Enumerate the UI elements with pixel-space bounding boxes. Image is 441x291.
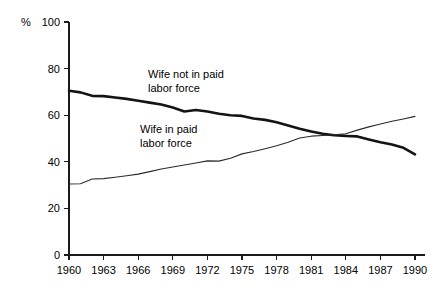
annotation-label-1-line2: labor force [140, 137, 192, 149]
x-tick-label: 1960 [57, 264, 81, 276]
line-chart: 020406080100 196019631966196919721975197… [0, 0, 441, 291]
annotation-label-1: Wife in paid [140, 123, 197, 135]
data-series [69, 91, 415, 184]
chart-container: 020406080100 196019631966196919721975197… [0, 0, 441, 291]
x-tick-label: 1969 [161, 264, 185, 276]
y-axis-ticks: 020406080100 [42, 16, 69, 261]
annotation-label-0-line2: labor force [148, 82, 200, 94]
x-tick-label: 1984 [334, 264, 358, 276]
y-tick-label: 40 [48, 156, 60, 168]
y-tick-label: 0 [54, 249, 60, 261]
x-tick-label: 1987 [368, 264, 392, 276]
series-line-1 [69, 116, 415, 184]
y-tick-label: 60 [48, 109, 60, 121]
y-tick-label: 20 [48, 202, 60, 214]
y-tick-label: 80 [48, 63, 60, 75]
x-tick-label: 1981 [299, 264, 323, 276]
y-tick-label: 100 [42, 16, 60, 28]
axes [69, 22, 425, 255]
x-axis-ticks: 1960196319661969197219751978198119841987… [57, 255, 427, 276]
x-tick-label: 1966 [126, 264, 150, 276]
x-tick-label: 1975 [230, 264, 254, 276]
y-axis-unit-label: % [21, 16, 31, 28]
x-tick-label: 1978 [264, 264, 288, 276]
annotation-label-0: Wife not in paid [148, 68, 224, 80]
x-tick-label: 1972 [195, 264, 219, 276]
series-line-0 [69, 91, 415, 155]
x-tick-label: 1963 [91, 264, 115, 276]
series-annotations: Wife not in paidlabor forceWife in paidl… [140, 68, 224, 149]
x-tick-label: 1990 [403, 264, 427, 276]
